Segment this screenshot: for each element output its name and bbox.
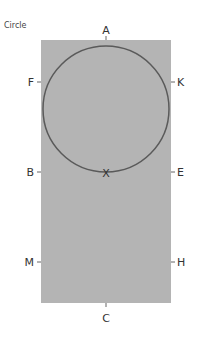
label-e: E — [177, 166, 184, 179]
label-c: C — [102, 312, 110, 325]
label-b: B — [26, 166, 34, 179]
label-f: F — [28, 76, 34, 89]
label-h: H — [177, 256, 185, 269]
label-k: K — [177, 76, 185, 89]
circle-diagram: A F K B E X M H C — [0, 0, 204, 340]
label-x: X — [102, 167, 110, 180]
label-m: M — [25, 256, 35, 269]
label-a: A — [102, 24, 110, 37]
